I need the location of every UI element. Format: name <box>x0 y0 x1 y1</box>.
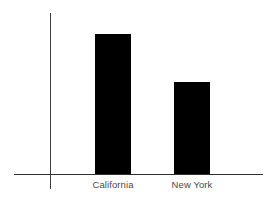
x-axis-line <box>14 174 263 175</box>
bar-california <box>95 34 131 176</box>
bar-new-york <box>174 82 210 175</box>
x-tick-label-california: California <box>78 179 148 190</box>
x-tick-label-new-york: New York <box>157 179 227 190</box>
plot-area <box>0 0 275 175</box>
y-axis-line <box>50 13 51 189</box>
bar-chart: California New York <box>0 0 275 204</box>
